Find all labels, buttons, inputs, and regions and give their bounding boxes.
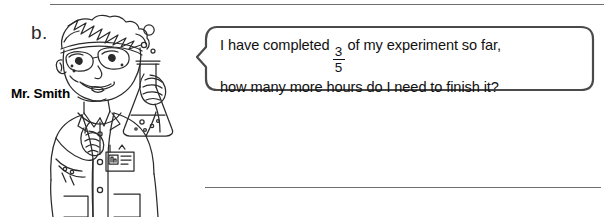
speech-line1-suffix: of my experiment so far,	[348, 37, 501, 53]
collar-and-shirt	[78, 100, 121, 154]
speech-line-2: how many more hours do I need to finish …	[220, 75, 578, 99]
speech-bubble: I have completed35of my experiment so fa…	[196, 24, 596, 92]
speech-line1-prefix: I have completed	[220, 37, 330, 53]
answer-line[interactable]	[205, 187, 601, 188]
head	[56, 42, 142, 101]
erlenmeyer-flask-icon	[123, 61, 172, 136]
speech-line-1: I have completed35of my experiment so fa…	[220, 33, 578, 75]
fraction-three-fifths: 35	[333, 45, 345, 75]
top-divider-rule	[50, 4, 604, 5]
problem-letter: b.	[31, 22, 48, 44]
safety-goggles-icon	[66, 48, 129, 71]
lab-coat	[51, 113, 158, 217]
scientist-figure	[48, 14, 204, 217]
worksheet-page: b. Mr. Smith	[0, 0, 604, 217]
fraction-denominator: 5	[333, 60, 344, 75]
right-hand	[140, 74, 166, 136]
fraction-numerator: 3	[333, 45, 344, 60]
hair-icon	[62, 15, 150, 49]
id-badge-icon	[106, 145, 134, 171]
speech-bubble-text: I have completed35of my experiment so fa…	[220, 33, 578, 99]
